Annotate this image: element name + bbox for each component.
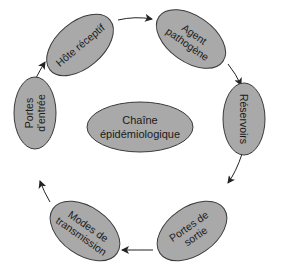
arrow-agent-to-reservoirs <box>228 64 241 85</box>
center-label-line2: épidémiologique <box>100 128 180 140</box>
node-agent-pathogene: Agent pathogène <box>146 0 236 80</box>
node-reservoirs: Réservoirs <box>223 83 265 155</box>
node-portes-de-sortie: Portes de sortie <box>146 189 237 273</box>
epidemiological-chain-diagram: Hôte réceptif Agent pathogène Réservoirs… <box>0 0 281 273</box>
node-label-line1: Portes <box>23 98 35 128</box>
arrow-reservoirs-to-sortie <box>228 154 242 183</box>
arrow-entree-to-hote <box>36 62 45 78</box>
arrow-transmission-to-entree <box>40 181 50 202</box>
node-label: Réservoirs <box>238 94 250 144</box>
center-node-chaine-epidemiologique: Chaîne épidémiologique <box>87 102 193 152</box>
node-modes-de-transmission: Modes de transmission <box>39 189 130 273</box>
node-hote-receptif: Hôte réceptif <box>35 2 124 87</box>
node-label-line2: d'entrée <box>35 94 47 132</box>
node-portes-d-entree: Portes d'entrée <box>14 77 56 149</box>
center-ellipse <box>87 102 193 152</box>
arrow-hote-to-agent <box>118 18 152 20</box>
center-label-line1: Chaîne <box>122 114 157 126</box>
